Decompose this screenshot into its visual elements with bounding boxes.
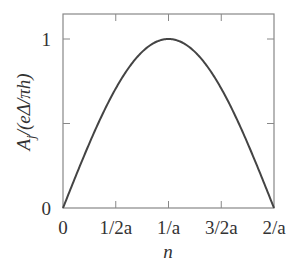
- y-axis-label: Aj/(eΔ/πh): [13, 73, 38, 152]
- y-tick-labels: 01: [42, 29, 52, 219]
- x-tick-labels: 01/2a1/a3/2a2/a: [58, 217, 286, 238]
- chart: 01/2a1/a3/2a2/a 01 n Aj/(eΔ/πh): [0, 0, 295, 270]
- x-tick-label: 1/a: [157, 217, 181, 238]
- x-tick-label: 2/a: [262, 217, 286, 238]
- plot-frame: [63, 14, 274, 208]
- x-axis-label: n: [163, 241, 173, 262]
- x-tick-label: 3/2a: [205, 217, 238, 238]
- x-tick-label: 1/2a: [99, 217, 132, 238]
- x-tick-label: 0: [58, 217, 68, 238]
- y-tick-label: 0: [42, 198, 52, 219]
- tick-marks: [63, 14, 274, 208]
- y-tick-label: 1: [42, 29, 52, 50]
- data-curve: [63, 39, 274, 208]
